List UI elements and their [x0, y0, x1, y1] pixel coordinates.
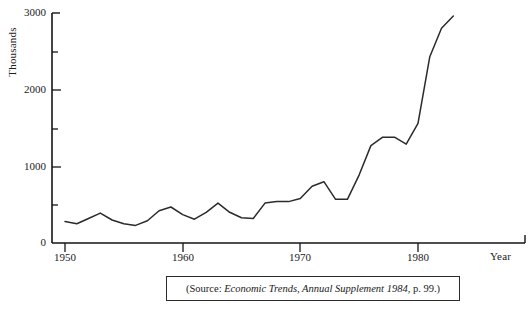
- source-caption-text: (Source: Economic Trends, Annual Supplem…: [186, 283, 440, 294]
- figure-panel: Thousands Year 3000 2000 1000 0 1950 196…: [0, 0, 530, 310]
- x-axis-ticks: [65, 243, 418, 252]
- caption-title-italic: Economic Trends, Annual Supplement 1984: [224, 283, 407, 294]
- y-tick-label-2000: 2000: [6, 83, 46, 95]
- y-tick-label-3000: 3000: [6, 6, 46, 18]
- y-tick-label-0: 0: [6, 236, 46, 248]
- x-tick-label-1980: 1980: [395, 251, 441, 263]
- chart-axes: [52, 13, 525, 243]
- x-tick-label-1970: 1970: [277, 251, 323, 263]
- x-tick-label-1960: 1960: [160, 251, 206, 263]
- caption-suffix: , p. 99.): [408, 283, 440, 294]
- y-tick-label-1000: 1000: [6, 160, 46, 172]
- source-caption-box: (Source: Economic Trends, Annual Supplem…: [166, 276, 460, 301]
- x-axis-title: Year: [490, 250, 511, 262]
- caption-prefix: (Source:: [186, 283, 224, 294]
- y-axis-title: Thousands: [6, 14, 18, 90]
- y-axis-ticks: [52, 52, 61, 205]
- line-chart: [0, 0, 530, 310]
- x-tick-label-1950: 1950: [42, 251, 88, 263]
- data-series-line: [65, 16, 453, 225]
